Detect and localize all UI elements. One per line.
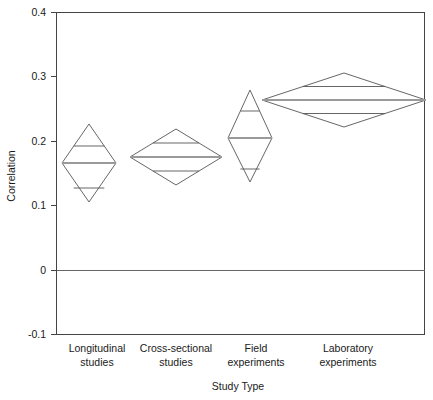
plot-frame	[57, 13, 425, 335]
y-tick-label: 0.1	[31, 199, 46, 211]
y-tick-label: 0.2	[31, 135, 46, 147]
x-category-label: Longitudinal	[69, 342, 126, 354]
y-tick-labels: 0.4 0.3 0.2 0.1 0 -0.1	[28, 6, 46, 340]
chart-canvas: 0.4 0.3 0.2 0.1 0 -0.1	[0, 0, 433, 400]
y-tick-label: 0.3	[31, 70, 46, 82]
x-category-label-line2: studies	[80, 356, 113, 368]
x-axis-title: Study Type	[212, 380, 265, 392]
y-tick-label: 0	[40, 264, 46, 276]
x-category-label: Cross-sectional	[140, 342, 212, 354]
x-category-label-line2: studies	[159, 356, 192, 368]
diamond-cross-sectional-studies	[130, 129, 222, 185]
x-category-label: Laboratory	[323, 342, 374, 354]
y-axis-title: Correlation	[5, 150, 17, 202]
correlation-diamond-plot: 0.4 0.3 0.2 0.1 0 -0.1	[0, 0, 433, 400]
y-tick-label: -0.1	[28, 328, 46, 340]
diamond-field-experiments	[228, 90, 272, 182]
diamond-longitudinal-studies	[62, 124, 116, 202]
x-category-label: Field	[245, 342, 268, 354]
diamond-laboratory-experiments	[262, 73, 426, 127]
y-axis-ticks	[51, 13, 57, 335]
x-category-label-line2: experiments	[227, 356, 284, 368]
x-category-label-line2: experiments	[319, 356, 376, 368]
y-tick-label: 0.4	[31, 6, 46, 18]
x-category-labels: Longitudinal studies Cross-sectional stu…	[69, 342, 377, 368]
